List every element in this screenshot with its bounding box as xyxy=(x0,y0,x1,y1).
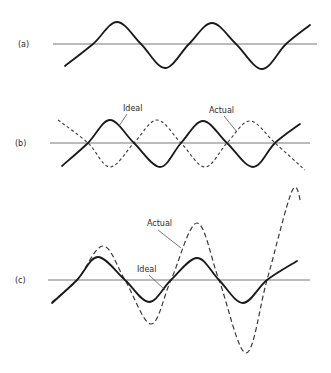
panel-c-label: (c) xyxy=(15,276,26,285)
panel-b-ideal-callout: Ideal xyxy=(123,104,142,113)
panel-b: (b) Ideal Actual xyxy=(15,104,310,170)
panel-c-ideal-leader xyxy=(149,275,165,290)
panel-c-ideal-callout: Ideal xyxy=(137,265,156,274)
panel-c-actual-leader xyxy=(158,230,181,248)
panel-c: (c) Actual Ideal xyxy=(15,187,310,353)
panel-b-actual-curve xyxy=(58,120,305,170)
panel-c-actual-callout: Actual xyxy=(147,219,172,228)
panel-b-actual-leader xyxy=(224,116,237,132)
panel-c-actual-curve xyxy=(52,187,301,353)
panel-a-waveform xyxy=(65,22,310,69)
panel-b-ideal-leader xyxy=(119,114,127,126)
panel-b-actual-callout: Actual xyxy=(209,106,234,115)
panel-b-ideal-curve xyxy=(62,120,300,167)
panel-b-label: (b) xyxy=(15,139,26,148)
panel-a-label: (a) xyxy=(18,40,29,49)
panel-a: (a) xyxy=(18,22,317,69)
waveform-figure: (a) (b) Ideal Actual (c) Actual Ideal xyxy=(0,0,331,373)
